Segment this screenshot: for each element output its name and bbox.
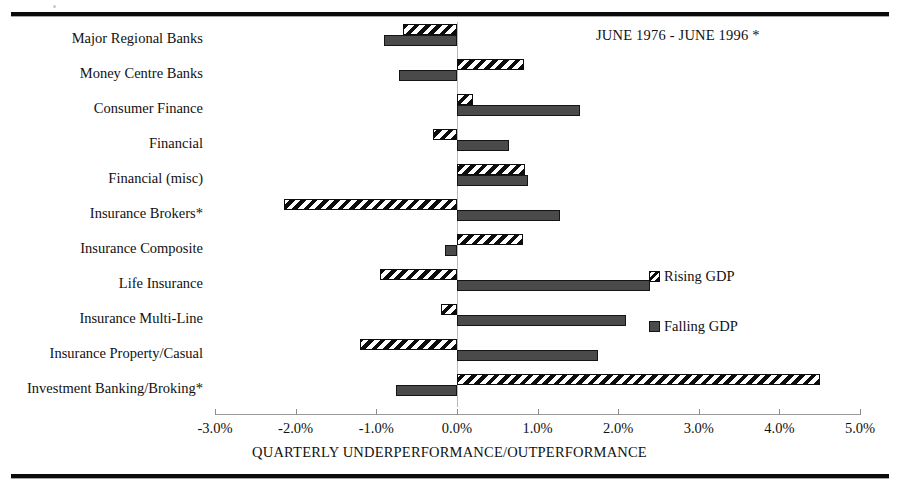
x-tick <box>296 409 297 415</box>
bar-rising <box>284 199 457 210</box>
bar-rising <box>360 339 457 350</box>
bottom-rule <box>11 474 889 478</box>
legend-swatch-falling-icon <box>649 321 660 332</box>
bar-rising <box>380 269 457 280</box>
category-label: Insurance Composite <box>0 240 203 257</box>
x-tick <box>699 409 700 415</box>
chart-row <box>215 197 860 232</box>
legend-swatch-rising-icon <box>649 271 660 282</box>
x-tick <box>618 409 619 415</box>
bar-falling <box>399 70 457 81</box>
legend-item: Falling GDP <box>649 317 819 335</box>
category-label: Insurance Brokers* <box>0 205 203 222</box>
chart-legend: Rising GDPFalling GDP <box>649 267 819 367</box>
legend-label: Rising GDP <box>664 268 735 285</box>
x-tick <box>376 409 377 415</box>
x-tick-label: 3.0% <box>664 420 734 437</box>
x-axis-title: QUARTERLY UNDERPERFORMANCE/OUTPERFORMANC… <box>0 444 899 461</box>
category-label: Consumer Finance <box>0 100 203 117</box>
bar-rising <box>457 374 820 385</box>
legend-label: Falling GDP <box>664 318 738 335</box>
bar-falling <box>457 280 651 291</box>
category-label: Insurance Multi-Line <box>0 310 203 327</box>
category-label: Investment Banking/Broking* <box>0 380 203 397</box>
bar-rising <box>457 164 526 175</box>
bar-rising <box>457 59 524 70</box>
bar-falling <box>396 385 456 396</box>
bar-rising <box>457 94 473 105</box>
x-tick-label: -2.0% <box>261 420 331 437</box>
bar-falling <box>457 350 598 361</box>
x-tick-label: 1.0% <box>503 420 573 437</box>
bar-falling <box>457 210 560 221</box>
category-label: Life Insurance <box>0 275 203 292</box>
chart-row <box>215 127 860 162</box>
chart-row <box>215 92 860 127</box>
category-label: Insurance Property/Casual <box>0 345 203 362</box>
x-tick-label: 2.0% <box>583 420 653 437</box>
x-tick-label: -1.0% <box>341 420 411 437</box>
chart-figure: JUNE 1976 - JUNE 1996 * Major Regional B… <box>0 0 899 495</box>
x-tick <box>779 409 780 415</box>
legend-item: Rising GDP <box>649 267 819 285</box>
x-tick-label: 5.0% <box>825 420 895 437</box>
category-label: Major Regional Banks <box>0 30 203 47</box>
category-label: Financial <box>0 135 203 152</box>
x-tick <box>215 409 216 415</box>
x-tick-label: 0.0% <box>422 420 492 437</box>
bar-falling <box>384 35 457 46</box>
bar-falling <box>457 140 509 151</box>
x-tick <box>457 409 458 415</box>
bar-rising <box>441 304 457 315</box>
category-label: Money Centre Banks <box>0 65 203 82</box>
bar-falling <box>457 105 580 116</box>
bar-rising <box>457 234 523 245</box>
chart-row <box>215 232 860 267</box>
page-speck <box>53 5 56 8</box>
x-tick <box>860 409 861 415</box>
category-label: Financial (misc) <box>0 170 203 187</box>
x-tick-label: 4.0% <box>744 420 814 437</box>
bar-falling <box>457 175 528 186</box>
bar-falling <box>457 315 626 326</box>
x-tick <box>538 409 539 415</box>
chart-row <box>215 162 860 197</box>
chart-row <box>215 57 860 92</box>
bar-rising <box>403 24 457 35</box>
bar-rising <box>433 129 457 140</box>
x-tick-label: -3.0% <box>180 420 250 437</box>
bar-falling <box>445 245 457 256</box>
top-rule <box>11 12 889 16</box>
chart-row <box>215 22 860 57</box>
category-axis-labels: Major Regional BanksMoney Centre BanksCo… <box>0 22 203 407</box>
chart-row <box>215 372 860 407</box>
